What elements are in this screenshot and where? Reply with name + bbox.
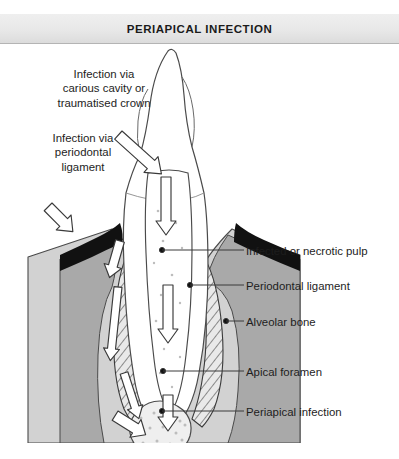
- label-line: Infection via: [28, 67, 180, 81]
- label-line: traumatised crown: [28, 96, 180, 110]
- page-bleed-edge: [0, 451, 399, 459]
- figure-page: PERIAPICAL INFECTION: [0, 0, 399, 459]
- label-infection-carious: Infection via carious cavity or traumati…: [28, 67, 180, 110]
- page-title: PERIAPICAL INFECTION: [127, 23, 273, 35]
- label-periapical-infection: Periapical infection: [246, 406, 342, 418]
- label-line: ligament: [23, 160, 143, 174]
- label-periodontal-ligament: Periodontal ligament: [246, 280, 350, 292]
- label-line: carious cavity or: [28, 81, 180, 95]
- arrow-periodontal-entry: [41, 199, 81, 239]
- label-line: periodontal: [23, 145, 143, 159]
- label-infected-pulp: Infected or necrotic pulp: [246, 245, 368, 257]
- label-apical-foramen: Apical foramen: [246, 366, 322, 378]
- label-infection-periodontal: Infection via periodontal ligament: [23, 131, 143, 174]
- label-line: Infection via: [23, 131, 143, 145]
- figure-title-banner: PERIAPICAL INFECTION: [0, 14, 399, 44]
- label-alveolar-bone: Alveolar bone: [246, 316, 316, 328]
